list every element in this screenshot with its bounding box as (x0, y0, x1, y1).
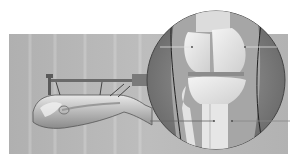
medical-illustration (0, 0, 297, 159)
knee-inset (147, 10, 285, 150)
